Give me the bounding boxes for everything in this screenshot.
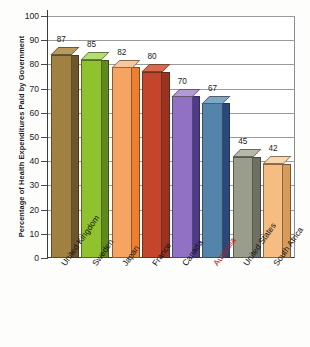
y-tick-label: 60 bbox=[29, 108, 39, 118]
bar-france[interactable]: 80 bbox=[142, 64, 163, 258]
y-tick-label: 90 bbox=[29, 35, 39, 45]
y-tick-label: 80 bbox=[29, 59, 39, 69]
bar-top-face bbox=[81, 52, 109, 60]
y-tick-label: 0 bbox=[34, 253, 39, 263]
bar-united-kingdom[interactable]: 87 bbox=[51, 47, 72, 258]
bar-australia[interactable]: 67 bbox=[202, 96, 223, 258]
y-tick-label: 20 bbox=[29, 205, 39, 215]
y-tick-label: 70 bbox=[29, 84, 39, 94]
y-tick-label: 40 bbox=[29, 156, 39, 166]
bar-series: 8785828070674542 bbox=[47, 16, 295, 258]
bar-value-label: 82 bbox=[117, 48, 126, 57]
bar-top-face bbox=[142, 64, 170, 72]
y-axis-title: Percentage of Health Expenditures Paid b… bbox=[17, 12, 26, 262]
bar-value-label: 80 bbox=[147, 52, 156, 61]
bar-value-label: 70 bbox=[178, 77, 187, 86]
bar-value-label: 85 bbox=[87, 40, 96, 49]
bar-front-face bbox=[51, 55, 72, 258]
bar-front-face bbox=[112, 67, 133, 258]
y-tick-label: 10 bbox=[29, 229, 39, 239]
y-tick-label: 30 bbox=[29, 180, 39, 190]
y-tick-mark bbox=[41, 258, 48, 259]
y-tick-label: 100 bbox=[25, 11, 39, 21]
bar-front-face bbox=[172, 96, 193, 258]
bar-top-face bbox=[51, 47, 79, 55]
bar-canada[interactable]: 70 bbox=[172, 89, 193, 258]
x-axis-category-labels: United KingdomSwedenJapanFranceCanadaAus… bbox=[47, 262, 295, 347]
bar-front-face bbox=[202, 103, 223, 258]
bar-top-face bbox=[263, 156, 291, 164]
bar-side-face bbox=[162, 72, 170, 258]
plot-area: 0102030405060708090100 8785828070674542 bbox=[47, 16, 295, 258]
bar-top-face bbox=[172, 89, 200, 97]
bar-value-label: 67 bbox=[208, 84, 217, 93]
bar-top-face bbox=[112, 60, 140, 68]
bar-chart: Percentage of Health Expenditures Paid b… bbox=[0, 0, 310, 347]
bar-value-label: 42 bbox=[268, 144, 277, 153]
bar-top-face bbox=[202, 96, 230, 104]
bar-side-face bbox=[193, 96, 201, 258]
bar-front-face bbox=[142, 72, 163, 258]
bar-side-face bbox=[102, 60, 110, 258]
bar-side-face bbox=[132, 67, 140, 258]
bar-side-face bbox=[72, 55, 80, 258]
bar-top-face bbox=[233, 149, 261, 157]
bar-japan[interactable]: 82 bbox=[112, 60, 133, 258]
y-tick-label: 50 bbox=[29, 132, 39, 142]
bar-value-label: 45 bbox=[238, 137, 247, 146]
bar-value-label: 87 bbox=[57, 35, 66, 44]
